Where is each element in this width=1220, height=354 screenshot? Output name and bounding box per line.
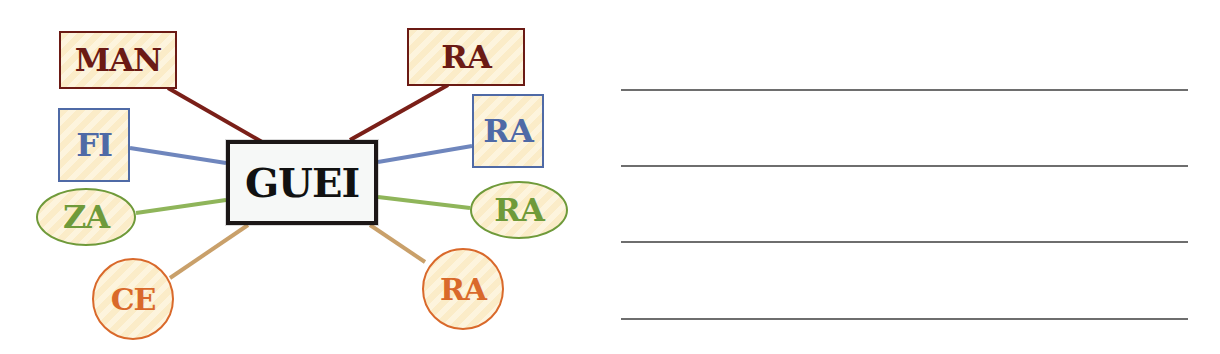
node-fi: FI <box>58 108 130 182</box>
node-ra-3: RA <box>470 181 568 239</box>
node-label: FI <box>76 126 112 164</box>
node-label: MAN <box>75 41 162 79</box>
center-label: GUEI <box>245 159 359 206</box>
link-za <box>136 200 226 213</box>
center-node: GUEI <box>226 140 378 225</box>
answer-line-3[interactable] <box>621 241 1188 243</box>
answer-line-4[interactable] <box>621 318 1188 320</box>
node-ra-1: RA <box>407 28 525 86</box>
node-ra-4: RA <box>422 248 504 330</box>
node-ra-2: RA <box>472 94 544 168</box>
link-ra1 <box>350 85 448 140</box>
node-man: MAN <box>59 31 177 89</box>
link-fi <box>130 148 226 163</box>
node-label: ZA <box>63 198 109 236</box>
node-label: RA <box>494 191 543 229</box>
link-ra3 <box>378 197 470 208</box>
link-ce <box>170 225 248 278</box>
node-label: RA <box>440 272 486 307</box>
node-ce: CE <box>92 258 174 340</box>
node-label: RA <box>441 38 490 76</box>
word-web-diagram: MAN FI ZA CE GUEI RA RA RA RA <box>0 0 600 354</box>
answer-line-1[interactable] <box>621 89 1188 91</box>
link-ra2 <box>378 146 472 162</box>
node-label: RA <box>483 112 532 150</box>
node-za: ZA <box>36 188 136 246</box>
answer-line-2[interactable] <box>621 165 1188 167</box>
node-label: CE <box>111 282 156 317</box>
link-man <box>168 88 262 142</box>
link-ra4 <box>370 225 425 262</box>
